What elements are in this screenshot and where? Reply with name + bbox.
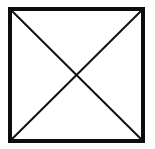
figure-canvas [0,0,155,149]
square-with-diagonals-figure [0,0,155,149]
